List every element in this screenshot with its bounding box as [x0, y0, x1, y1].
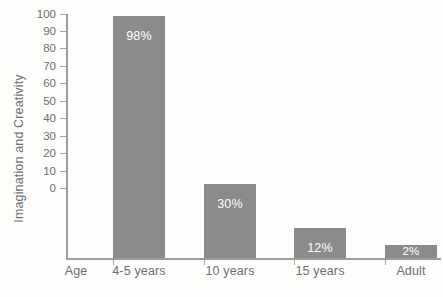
y-tick-label-10: 10	[43, 166, 56, 178]
y-tick-10: 10	[60, 171, 66, 172]
y-tick-40: 40	[60, 118, 66, 119]
x-label-10-years: 10 years	[190, 264, 270, 278]
x-axis-title: Age	[58, 264, 94, 278]
bar-15-years: 12%	[294, 228, 346, 258]
y-tick-0: 0	[60, 188, 66, 189]
y-tick-label-30: 30	[43, 131, 56, 143]
bar-value-15-years: 12%	[294, 242, 346, 255]
y-tick-label-90: 90	[43, 26, 56, 38]
y-tick-label-20: 20	[43, 148, 56, 160]
bar-adult: 2%	[385, 245, 437, 258]
y-axis-line	[66, 14, 68, 260]
bar-value-10-years: 30%	[204, 198, 256, 211]
y-tick-30: 30	[60, 136, 66, 137]
bar-chart: Imagination and Creativity 100 90 80 70 …	[0, 0, 443, 297]
y-tick-label-0: 0	[50, 183, 56, 195]
y-tick-20: 20	[60, 153, 66, 154]
x-label-15-years: 15 years	[280, 264, 360, 278]
y-tick-60: 60	[60, 83, 66, 84]
y-tick-label-80: 80	[43, 43, 56, 55]
bar-10-years: 30%	[204, 184, 256, 258]
y-tick-90: 90	[60, 31, 66, 32]
y-tick-70: 70	[60, 66, 66, 67]
y-tick-label-100: 100	[37, 9, 56, 21]
x-label-4-5-years: 4-5 years	[99, 264, 179, 278]
y-tick-50: 50	[60, 101, 66, 102]
y-tick-label-60: 60	[43, 78, 56, 90]
y-tick-label-50: 50	[43, 96, 56, 108]
bar-value-4-5-years: 98%	[113, 30, 165, 43]
x-label-adult: Adult	[371, 264, 443, 278]
y-tick-100: 100	[60, 14, 66, 15]
bar-value-adult: 2%	[385, 246, 437, 258]
y-tick-label-70: 70	[43, 61, 56, 73]
y-tick-80: 80	[60, 48, 66, 49]
bar-4-5-years: 98%	[113, 16, 165, 258]
y-tick-label-40: 40	[43, 113, 56, 125]
y-axis-title: Imagination and Creativity	[6, 0, 32, 297]
